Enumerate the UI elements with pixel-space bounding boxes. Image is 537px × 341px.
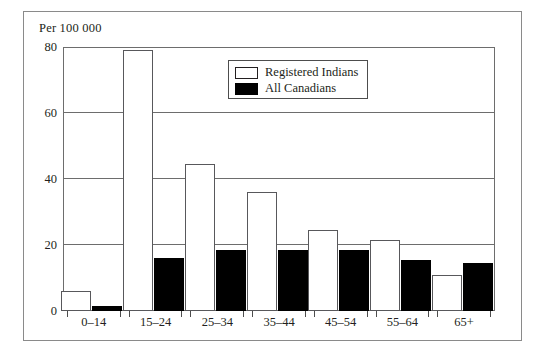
x-axis-tick — [243, 311, 244, 317]
x-axis-tick — [490, 311, 491, 317]
bar-014-registered-indians — [61, 291, 91, 311]
x-axis-tick — [120, 311, 121, 317]
bar-5564-all-canadians — [401, 260, 431, 311]
legend-label-registered-indians: Registered Indians — [265, 66, 358, 79]
x-axis-tick — [367, 311, 368, 317]
x-tick-label-014: 0–14 — [81, 315, 106, 330]
legend-label-all-canadians: All Canadians — [265, 82, 336, 95]
y-tick-label-0: 0 — [27, 304, 57, 319]
bar-65+-all-canadians — [463, 263, 493, 311]
y-axis-unit-caption: Per 100 000 — [39, 21, 102, 36]
x-tick-label-2534: 25–34 — [202, 315, 233, 330]
black-square-icon — [235, 83, 258, 95]
bar-5564-registered-indians — [370, 240, 400, 311]
x-axis-tick — [376, 311, 377, 317]
bar-65+-registered-indians — [432, 275, 462, 311]
bar-4554-registered-indians — [308, 230, 338, 311]
x-axis-tick — [190, 311, 191, 317]
x-axis-tick — [181, 311, 182, 317]
bar-1524-registered-indians — [123, 50, 153, 311]
y-axis-tick-labels: 020406080 — [25, 47, 57, 311]
chart-legend: Registered Indians All Canadians — [228, 60, 368, 99]
x-tick-label-4554: 45–54 — [325, 315, 356, 330]
x-tick-label-65+: 65+ — [454, 315, 474, 330]
bar-1524-all-canadians — [154, 258, 184, 311]
y-tick-label-20: 20 — [27, 238, 57, 253]
bar-3544-all-canadians — [278, 250, 308, 311]
x-axis-tick — [428, 311, 429, 317]
x-axis-tick — [314, 311, 315, 317]
legend-item-all-canadians: All Canadians — [235, 81, 336, 96]
y-tick-label-60: 60 — [27, 106, 57, 121]
y-tick-label-40: 40 — [27, 172, 57, 187]
x-axis-tick — [67, 311, 68, 317]
x-axis-tick — [437, 311, 438, 317]
x-tick-label-5564: 55–64 — [387, 315, 418, 330]
x-tick-label-3544: 35–44 — [263, 315, 294, 330]
bar-014-all-canadians — [92, 306, 122, 311]
bar-4554-all-canadians — [339, 250, 369, 311]
x-tick-label-1524: 15–24 — [140, 315, 171, 330]
bar-2534-all-canadians — [216, 250, 246, 311]
x-axis-tick — [252, 311, 253, 317]
white-square-icon — [235, 67, 258, 79]
x-axis-tick — [305, 311, 306, 317]
legend-item-registered-indians: Registered Indians — [235, 65, 358, 80]
y-tick-label-80: 80 — [27, 40, 57, 55]
x-axis-tick — [129, 311, 130, 317]
bar-3544-registered-indians — [247, 192, 277, 311]
bar-2534-registered-indians — [185, 164, 215, 311]
